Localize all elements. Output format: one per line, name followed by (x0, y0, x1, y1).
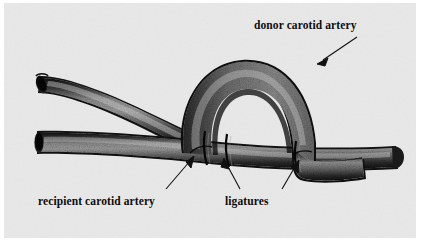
label-recipient-carotid-artery: recipient carotid artery (38, 195, 155, 207)
label-donor-carotid-artery: donor carotid artery (254, 19, 357, 31)
photograph: donor carotid artery recipient carotid a… (4, 3, 416, 238)
figure-panel: donor carotid artery recipient carotid a… (0, 0, 421, 244)
label-ligatures: ligatures (225, 195, 269, 207)
